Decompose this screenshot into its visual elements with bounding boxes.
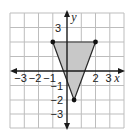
x-tick-label: −2 bbox=[29, 72, 42, 84]
x-tick-label: 2 bbox=[92, 72, 98, 84]
vertex-point bbox=[50, 40, 55, 45]
x-axis-label: x bbox=[113, 71, 120, 85]
y-tick-label: −2 bbox=[50, 94, 63, 106]
vertex-point bbox=[72, 98, 77, 103]
y-axis-down-arrow-icon bbox=[64, 123, 70, 130]
y-axis-label: y bbox=[70, 10, 77, 24]
x-tick-label: 3 bbox=[105, 72, 111, 84]
x-tick-label: −3 bbox=[14, 72, 27, 84]
vertex-point bbox=[93, 40, 98, 45]
y-tick-label: 3 bbox=[55, 22, 61, 34]
y-tick-label: −3 bbox=[50, 108, 63, 120]
coordinate-plane: −3 −2 −1 2 3 x 3 −1 −2 −3 y bbox=[0, 0, 130, 131]
y-tick-label: −1 bbox=[50, 80, 63, 92]
